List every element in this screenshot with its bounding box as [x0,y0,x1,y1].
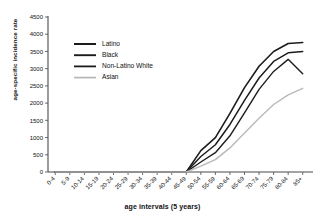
x-tick-label: 40-44 [157,175,173,191]
x-tick-label: 50-54 [186,175,202,191]
y-tick-label: 1000 [30,135,44,141]
x-tick-label: 15-19 [85,175,101,191]
x-tick-label: 60-64 [216,175,232,191]
x-tick-label: 10-14 [70,175,86,191]
x-axis-ticks: 0-45-910-1415-1920-2425-2930-3435-3940-4… [46,172,304,191]
y-tick-label: 500 [33,152,44,158]
legend-label: Non-Latino White [102,62,153,69]
y-tick-label: 2500 [30,83,44,89]
x-tick-label: 75-79 [259,175,275,191]
plot-area: 050010001500200025003000350040004500 0-4… [0,0,325,221]
x-tick-label: 0-4 [46,175,57,186]
x-tick-label: 65-69 [230,175,246,191]
y-tick-label: 0 [40,169,44,175]
x-tick-label: 85+ [292,175,304,187]
legend-label: Asian [102,73,119,80]
y-axis-ticks: 050010001500200025003000350040004500 [30,14,48,175]
x-tick-label: 5-9 [60,175,71,186]
legend-label: Latino [102,40,120,47]
chart-figure: age-specific incidence rate age interval… [0,0,325,221]
y-tick-label: 2000 [30,100,44,106]
y-tick-label: 3500 [30,49,44,55]
y-tick-label: 4500 [30,14,44,20]
x-tick-label: 70-74 [245,175,261,191]
y-tick-label: 4000 [30,31,44,37]
chart-legend: LatinoBlackNon-Latino WhiteAsian [74,40,153,81]
x-tick-label: 20-24 [99,175,115,191]
y-tick-label: 3000 [30,66,44,72]
data-series-group [55,42,302,172]
series-line-asian [55,88,302,172]
series-line-latino [55,42,302,172]
x-tick-label: 45-49 [172,175,188,191]
x-tick-label: 55-59 [201,175,217,191]
x-tick-label: 25-29 [114,175,130,191]
legend-label: Black [102,51,119,58]
x-tick-label: 80-84 [274,175,290,191]
x-tick-label: 30-34 [128,175,144,191]
y-tick-label: 1500 [30,118,44,124]
series-line-non-latino-white [55,59,302,172]
x-tick-label: 35-39 [143,175,159,191]
